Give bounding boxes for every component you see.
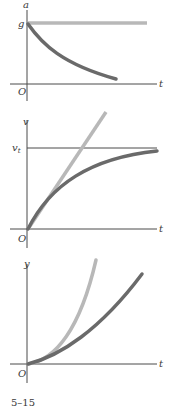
- x-axis-label: t: [159, 358, 164, 369]
- panel-acceleration: a g O t: [10, 0, 164, 101]
- origin-label: O: [18, 233, 26, 244]
- x-axis-label: t: [159, 78, 164, 89]
- panel-position: y O t: [10, 258, 164, 383]
- dark-curve-decay: [28, 24, 116, 79]
- x-axis-label: t: [159, 223, 164, 234]
- dark-curve-slower: [28, 274, 142, 364]
- panel-velocity: v vt O t: [10, 112, 164, 248]
- figure-caption: 5–15: [11, 397, 35, 408]
- g-level-label: g: [18, 18, 24, 29]
- figure-canvas: a g O t v vt O t y O t 5–15: [0, 0, 187, 410]
- y-axis-label: a: [23, 0, 29, 10]
- vt-level-label: vt: [12, 142, 21, 155]
- y-axis-label: y: [23, 258, 30, 269]
- y-axis-label: v: [23, 116, 29, 127]
- origin-label: O: [18, 86, 26, 97]
- origin-label: O: [18, 368, 26, 379]
- dark-curve-terminal: [28, 151, 157, 229]
